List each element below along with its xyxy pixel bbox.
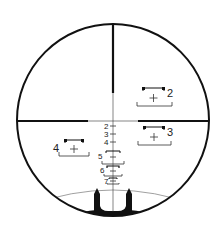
range-box-4: 4 — [53, 139, 89, 156]
reticle-diagram: 2 3 4 2 3 4 5 6 — [0, 0, 224, 238]
stadia-ladder: 2 3 4 5 6 7 — [98, 122, 124, 186]
range-box-3: 3 — [138, 126, 173, 145]
range-box-label: 3 — [167, 126, 173, 138]
stadia-label: 5 — [98, 152, 103, 161]
range-box-label: 2 — [167, 87, 173, 99]
range-box-2: 2 — [137, 87, 173, 106]
stadia-label: 6 — [100, 166, 105, 175]
stadia-label: 7 — [104, 177, 109, 186]
range-box-label: 4 — [53, 142, 59, 154]
stadia-label: 4 — [104, 138, 109, 147]
